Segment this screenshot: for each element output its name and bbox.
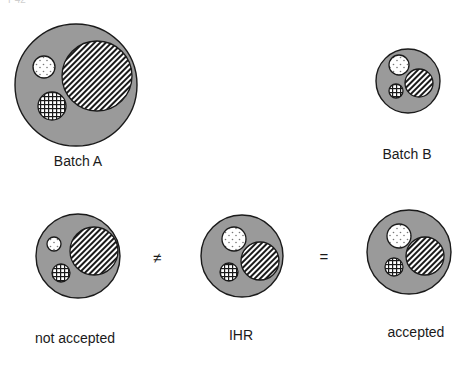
dotted-particle [47, 237, 61, 251]
grid-particle [389, 84, 403, 98]
hatched-particle [406, 237, 444, 275]
dotted-particle [33, 56, 55, 78]
hatched-particle [405, 69, 433, 97]
grid-particle [38, 92, 66, 120]
hatched-particle [62, 41, 132, 111]
equals-sign: = [320, 248, 329, 265]
dotted-particle [387, 224, 411, 248]
group-label-ihr: IHR [229, 327, 253, 343]
group-label-not-accepted: not accepted [35, 330, 115, 346]
particle-group-batch-a [15, 24, 137, 146]
grid-particle [52, 264, 70, 282]
particle-group-not-accepted [36, 214, 120, 298]
particle-group-batch-b [376, 49, 440, 113]
group-label-batch-a: Batch A [54, 153, 102, 169]
dotted-particle [222, 227, 246, 251]
particle-group-accepted [367, 210, 451, 294]
grid-particle [385, 258, 403, 276]
not-equal-sign: ≠ [153, 249, 161, 266]
dotted-particle [389, 55, 409, 75]
particle-group-ihr [201, 215, 283, 297]
grid-particle [220, 263, 238, 281]
group-label-accepted: accepted [388, 324, 445, 340]
hatched-particle [241, 242, 279, 280]
group-label-batch-b: Batch B [382, 146, 431, 162]
diagram-canvas [0, 0, 464, 368]
hatched-particle [70, 227, 118, 275]
